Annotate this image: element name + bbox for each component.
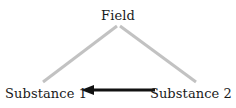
node-label-field: Field — [0, 9, 236, 22]
node-label-substance-2: Substance 2 — [150, 87, 232, 100]
su-field-diagram: Field Substance 1 Substance 2 — [0, 0, 236, 108]
node-label-substance-1: Substance 1 — [5, 87, 87, 100]
link-field-to-substance-2 — [120, 26, 196, 82]
link-field-to-substance-1 — [43, 26, 117, 82]
